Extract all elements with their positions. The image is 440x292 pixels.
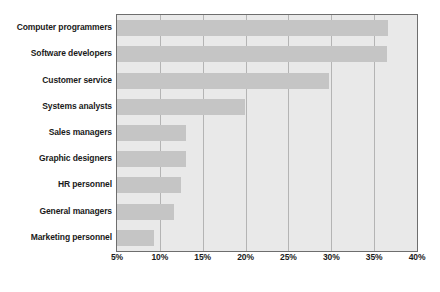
category-axis: Computer programmersSoftware developersC… xyxy=(0,14,112,250)
bar xyxy=(117,151,186,167)
category-label: HR personnel xyxy=(0,176,112,192)
category-label: Systems analysts xyxy=(0,98,112,114)
bar xyxy=(117,125,186,141)
bar xyxy=(117,230,154,246)
x-tick-label: 35% xyxy=(354,252,394,262)
bar xyxy=(117,20,388,36)
category-label: Customer service xyxy=(0,72,112,88)
x-tick-label: 30% xyxy=(311,252,351,262)
x-tick-label: 20% xyxy=(226,252,266,262)
plot-area xyxy=(116,14,418,252)
category-label: Computer programmers xyxy=(0,19,112,35)
category-label: Sales managers xyxy=(0,124,112,140)
bar xyxy=(117,73,329,89)
category-label: Software developers xyxy=(0,45,112,61)
x-tick-label: 25% xyxy=(268,252,308,262)
category-label: Marketing personnel xyxy=(0,229,112,245)
category-label: General managers xyxy=(0,203,112,219)
bar xyxy=(117,204,174,220)
x-tick-label: 10% xyxy=(140,252,180,262)
x-axis: 5%10%15%20%25%30%35%40% xyxy=(116,252,417,270)
x-tick-label: 5% xyxy=(97,252,137,262)
x-tick-label: 15% xyxy=(183,252,223,262)
bar-chart: Computer programmersSoftware developersC… xyxy=(0,0,440,292)
bar xyxy=(117,46,387,62)
bar-series xyxy=(117,15,417,251)
bar xyxy=(117,99,245,115)
category-label: Graphic designers xyxy=(0,150,112,166)
bar xyxy=(117,177,181,193)
x-tick-label: 40% xyxy=(397,252,437,262)
